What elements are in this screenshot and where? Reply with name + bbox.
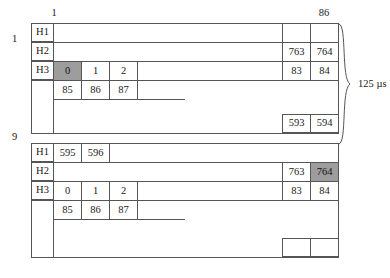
block-index-top: 1 bbox=[12, 34, 17, 45]
cell-bottom-tail-2 bbox=[310, 238, 339, 257]
block-bottom-h1-tail-rule bbox=[109, 162, 185, 163]
cell-top-payload-87: 87 bbox=[109, 80, 138, 100]
row-label-h2-bottom: H2 bbox=[31, 162, 54, 181]
cell-bottom-h3-slot1: 1 bbox=[81, 181, 110, 201]
row-label-h3-top: H3 bbox=[31, 61, 54, 80]
cell-bottom-payload-87: 87 bbox=[109, 200, 138, 220]
duration-brace bbox=[338, 22, 356, 146]
cell-top-h3-slot1: 1 bbox=[81, 61, 110, 81]
cell-bottom-h2-764: 764 bbox=[310, 162, 339, 182]
frame-end-label: 86 bbox=[319, 8, 330, 19]
timing-diagram: 1 1 86 H1 H2 H3 763 764 83 84 0 1 2 85 8… bbox=[0, 0, 390, 278]
duration-label: 125 µs bbox=[358, 78, 387, 89]
row-label-h2-top: H2 bbox=[31, 42, 54, 61]
cell-top-tail-594: 594 bbox=[310, 114, 339, 133]
cell-bottom-h1-596: 596 bbox=[81, 143, 110, 163]
cell-bottom-payload-85: 85 bbox=[53, 200, 82, 220]
cell-top-payload-86: 86 bbox=[81, 80, 110, 100]
cell-top-h3-slot2: 2 bbox=[109, 61, 138, 81]
cell-top-h2-r1: 763 bbox=[282, 42, 311, 62]
cell-bottom-h2-763: 763 bbox=[282, 162, 311, 182]
row-label-h1-bottom: H1 bbox=[31, 143, 54, 162]
block-bottom-h3-slot3-left bbox=[137, 181, 138, 201]
block-index-bottom: 9 bbox=[12, 132, 17, 143]
cell-bottom-h1-595: 595 bbox=[53, 143, 82, 163]
cell-bottom-h3-slot2: 2 bbox=[109, 181, 138, 201]
block-top-payload-slot3-left bbox=[137, 80, 138, 100]
cell-bottom-h3-slot0: 0 bbox=[53, 181, 82, 201]
block-bottom-h3-tail-rule bbox=[137, 200, 185, 201]
cell-top-h1-r2 bbox=[310, 23, 339, 43]
row-label-h3-bottom: H3 bbox=[31, 181, 54, 200]
cell-top-payload-85: 85 bbox=[53, 80, 82, 100]
block-bottom-bottom-rule bbox=[31, 257, 339, 258]
cell-top-h2-r2: 764 bbox=[310, 42, 339, 62]
cell-top-tail-593: 593 bbox=[282, 114, 311, 133]
cell-top-h3-r2: 84 bbox=[310, 61, 339, 81]
frame-start-label: 1 bbox=[51, 8, 56, 19]
cell-bottom-tail-1 bbox=[282, 238, 311, 257]
block-top-h3-tail-rule bbox=[137, 80, 185, 81]
block-bottom-h1-slot3-left bbox=[109, 143, 110, 163]
cell-top-h3-slot0: 0 bbox=[53, 61, 82, 81]
cell-bottom-payload-86: 86 bbox=[81, 200, 110, 220]
cell-bottom-h3-83: 83 bbox=[282, 181, 311, 201]
block-bottom-payload-slot3-left bbox=[137, 200, 138, 220]
cell-bottom-h3-84: 84 bbox=[310, 181, 339, 201]
cell-top-h3-r1: 83 bbox=[282, 61, 311, 81]
cell-top-h1-r1 bbox=[282, 23, 311, 43]
row-label-h1-top: H1 bbox=[31, 23, 54, 42]
block-top-bottom-rule bbox=[31, 133, 339, 134]
